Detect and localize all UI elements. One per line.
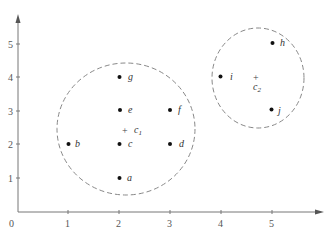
x-tick-2: 2 [116, 218, 121, 229]
axes: 0 1 2 3 4 5 1 2 3 4 5 [8, 14, 324, 229]
svg-text:e: e [128, 104, 133, 115]
svg-text:h: h [280, 37, 285, 48]
point-f: f [168, 104, 182, 115]
point-g: g [118, 71, 134, 82]
x-tick-1: 1 [65, 218, 70, 229]
svg-text:a: a [127, 172, 132, 183]
y-tick-5: 5 [8, 39, 13, 50]
point-i: i [219, 71, 234, 82]
point-j: j [270, 105, 282, 116]
x-tick-5: 5 [269, 218, 274, 229]
svg-text:i: i [230, 71, 233, 82]
point-b: b [67, 138, 81, 149]
svg-text:b: b [75, 138, 80, 149]
centroid-c2: + c2 [253, 72, 261, 94]
y-tick-3: 3 [8, 106, 13, 117]
svg-text:d: d [179, 138, 185, 149]
point-d: d [168, 138, 185, 149]
point-a: a [118, 172, 133, 183]
point-e: e [118, 104, 133, 115]
x-axis-arrow-icon [315, 210, 324, 215]
cluster-diagram: 0 1 2 3 4 5 1 2 3 4 5 a b c d [0, 0, 329, 235]
svg-text:f: f [178, 104, 182, 115]
svg-text:c: c [128, 138, 133, 149]
data-points: a b c d e f g h [67, 37, 286, 183]
svg-text:g: g [128, 71, 133, 82]
svg-text:c2: c2 [253, 81, 261, 94]
svg-text:c1: c1 [134, 124, 142, 137]
centroid-c1: + c1 [122, 124, 142, 137]
x-tick-4: 4 [218, 218, 223, 229]
x-tick-3: 3 [167, 218, 172, 229]
svg-text:j: j [276, 105, 281, 116]
point-c: c [118, 138, 134, 149]
point-h: h [271, 37, 286, 48]
y-axis-arrow-icon [16, 14, 21, 23]
y-tick-1: 1 [8, 173, 13, 184]
plus-icon: + [122, 125, 128, 136]
y-tick-4: 4 [8, 72, 13, 83]
origin-label: 0 [9, 218, 14, 229]
y-tick-2: 2 [8, 139, 13, 150]
